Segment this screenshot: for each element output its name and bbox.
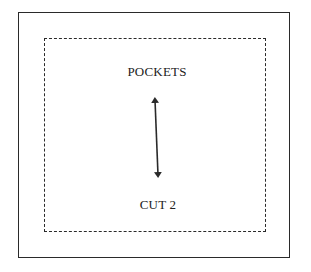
grainline-double-arrow-icon <box>0 0 311 272</box>
cut-instruction-label: CUT 2 <box>140 197 177 213</box>
